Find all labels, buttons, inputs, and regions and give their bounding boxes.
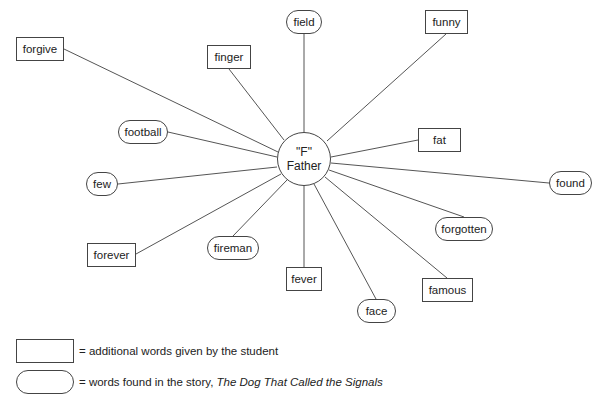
center-node-father: "F" Father bbox=[277, 132, 331, 186]
word-node-face: face bbox=[357, 299, 396, 323]
word-node-football: football bbox=[118, 120, 168, 144]
legend-oval-prefix: = words found in the story, bbox=[79, 376, 217, 388]
word-node-fireman: fireman bbox=[207, 236, 259, 260]
edge-funny bbox=[327, 34, 446, 141]
legend-box-text: = additional words given by the student bbox=[79, 345, 278, 357]
edge-face bbox=[314, 184, 376, 299]
word-label: fat bbox=[433, 134, 446, 146]
word-label: famous bbox=[429, 284, 467, 296]
word-node-forever: forever bbox=[87, 243, 136, 267]
word-label: fever bbox=[291, 273, 317, 285]
word-node-fever: fever bbox=[286, 267, 322, 291]
word-node-few: few bbox=[86, 172, 118, 196]
edge-football bbox=[168, 132, 277, 157]
edge-fat bbox=[331, 140, 418, 157]
edge-fireman bbox=[233, 180, 287, 236]
legend-oval-text: = words found in the story, The Dog That… bbox=[79, 376, 383, 388]
word-label: forgive bbox=[23, 43, 58, 55]
center-word: Father bbox=[287, 159, 322, 173]
center-letter: "F" bbox=[296, 145, 312, 159]
edge-finger bbox=[229, 69, 284, 140]
word-node-finger: finger bbox=[207, 45, 251, 69]
word-node-famous: famous bbox=[422, 278, 473, 302]
word-node-forgive: forgive bbox=[16, 37, 64, 61]
story-title: The Dog That Called the Signals bbox=[217, 376, 383, 388]
legend-oval-row: = words found in the story, The Dog That… bbox=[16, 370, 383, 394]
word-label: fireman bbox=[214, 242, 252, 254]
word-label: few bbox=[93, 178, 111, 190]
word-label: face bbox=[366, 305, 388, 317]
legend-oval-shape bbox=[16, 370, 74, 394]
legend-box-shape bbox=[16, 339, 74, 363]
edge-famous bbox=[325, 177, 447, 278]
word-node-field: field bbox=[286, 10, 322, 34]
word-label: funny bbox=[432, 16, 460, 28]
word-label: forgotten bbox=[441, 223, 486, 235]
edge-found bbox=[331, 163, 549, 183]
word-label: found bbox=[556, 177, 585, 189]
word-label: field bbox=[293, 16, 314, 28]
word-node-forgotten: forgotten bbox=[435, 217, 493, 241]
word-label: forever bbox=[94, 249, 130, 261]
edge-forgotten bbox=[329, 170, 464, 217]
word-label: football bbox=[124, 126, 161, 138]
legend-box-row: = additional words given by the student bbox=[16, 339, 278, 363]
word-node-fat: fat bbox=[418, 128, 461, 152]
word-node-found: found bbox=[549, 171, 592, 195]
word-label: finger bbox=[215, 51, 244, 63]
word-node-funny: funny bbox=[425, 10, 468, 34]
edge-few bbox=[118, 167, 277, 184]
